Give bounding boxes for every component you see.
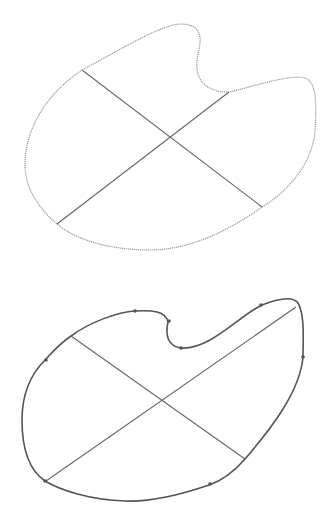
control-point-dot: [43, 479, 47, 483]
control-points: [43, 303, 305, 486]
top-palette-shape: [25, 24, 316, 250]
bottom-cross-line-1: [71, 336, 245, 459]
top-cross-lines: [57, 70, 262, 224]
control-point-dot: [259, 303, 263, 307]
bottom-cross-line-2: [46, 307, 296, 481]
control-point-dot: [167, 319, 171, 323]
control-point-dot: [179, 346, 183, 350]
bottom-cross-lines: [46, 307, 296, 481]
control-point-dot: [44, 358, 48, 362]
top-cross-line-2: [57, 92, 229, 224]
control-point-dot: [208, 482, 212, 486]
bottom-palette-shape: [22, 299, 305, 501]
diagram-canvas: [0, 0, 330, 519]
control-point-dot: [301, 355, 305, 359]
control-point-dot: [133, 309, 137, 313]
